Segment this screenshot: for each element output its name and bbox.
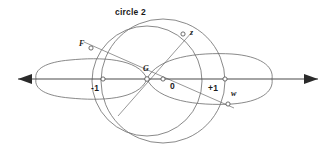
- figure-title: circle 2: [115, 8, 146, 17]
- geometry-figure: circle 2 F z G 0 -1 +1 w: [0, 0, 332, 152]
- label-point-z: z: [190, 29, 193, 37]
- label-point-f: F: [79, 40, 84, 48]
- marker-g: [145, 77, 150, 82]
- marker-f: [89, 46, 93, 50]
- label-point-w: w: [231, 90, 236, 98]
- axis-arrow-right-icon: [304, 74, 318, 84]
- label-origin: 0: [170, 82, 175, 91]
- marker-minus-one: [101, 77, 105, 81]
- label-minus-one: -1: [91, 84, 99, 93]
- label-plus-one: +1: [208, 84, 218, 93]
- marker-plus-one: [223, 77, 227, 81]
- label-point-g: G: [143, 65, 149, 73]
- chord-f-w: [84, 42, 234, 108]
- chord-z-lower-left: [118, 32, 192, 116]
- figure-canvas: [0, 0, 332, 152]
- marker-origin: [161, 77, 165, 81]
- real-axis: [18, 74, 318, 84]
- marker-w: [226, 102, 230, 106]
- marker-z: [181, 32, 185, 36]
- axis-arrow-left-icon: [18, 74, 32, 84]
